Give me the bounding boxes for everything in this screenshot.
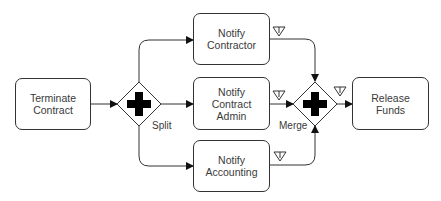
data-triangle-icon bbox=[273, 91, 285, 100]
data-triangle-icon bbox=[274, 152, 286, 161]
task-label: Notify Contract Admin bbox=[208, 86, 256, 122]
flow-split-contractor bbox=[139, 40, 193, 82]
task-notify-accounting: Notify Accounting bbox=[193, 140, 270, 192]
task-label: Release Funds bbox=[367, 92, 415, 116]
task-release-funds: Release Funds bbox=[352, 77, 429, 130]
flow-split-accounting bbox=[139, 126, 193, 166]
task-notify-contract-admin: Notify Contract Admin bbox=[193, 77, 270, 130]
task-label: Notify Contractor bbox=[202, 27, 262, 51]
task-notify-contractor: Notify Contractor bbox=[193, 13, 270, 65]
data-triangle-icon bbox=[273, 27, 285, 36]
task-label: Terminate Contract bbox=[25, 92, 81, 116]
data-triangle-icon bbox=[334, 87, 346, 96]
flow-contractor-merge bbox=[270, 39, 315, 81]
merge-label: Merge bbox=[279, 120, 307, 131]
bpmn-diagram: Terminate Contract Notify Contractor Not… bbox=[0, 0, 441, 201]
flow-accounting-merge bbox=[270, 126, 315, 165]
task-label: Notify Accounting bbox=[201, 154, 263, 178]
split-label: Split bbox=[152, 120, 171, 131]
task-terminate-contract: Terminate Contract bbox=[15, 78, 91, 130]
